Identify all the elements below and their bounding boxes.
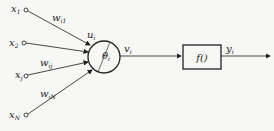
- output-label: yi: [225, 43, 234, 55]
- input-label-x2: x2: [9, 37, 19, 49]
- input-node-xN: [24, 113, 28, 117]
- input-node-xj: [24, 74, 28, 78]
- input-edges: [26, 11, 92, 114]
- edge-xN: [28, 70, 92, 114]
- neuron-diagram: x1 x2 xj xN wi1 wij wiN ui θi vi f() yi: [0, 0, 274, 131]
- activation-label: f(): [195, 52, 208, 63]
- input-node-x1: [24, 8, 28, 12]
- net-output-label: vi: [124, 43, 132, 55]
- input-label-x1: x1: [11, 3, 20, 15]
- input-label-xN: xN: [9, 109, 21, 121]
- weight-label-wiN: wiN: [40, 88, 56, 100]
- weight-label-wij: wij: [40, 57, 52, 70]
- input-node-x2: [22, 41, 26, 45]
- sum-label-ui: ui: [87, 29, 95, 41]
- input-nodes: [22, 8, 28, 117]
- threshold-label: θi: [102, 50, 110, 62]
- edge-xj: [28, 62, 88, 75]
- input-label-xj: xj: [15, 69, 23, 82]
- edge-x2: [26, 43, 88, 52]
- weight-label-wi1: wi1: [52, 12, 66, 24]
